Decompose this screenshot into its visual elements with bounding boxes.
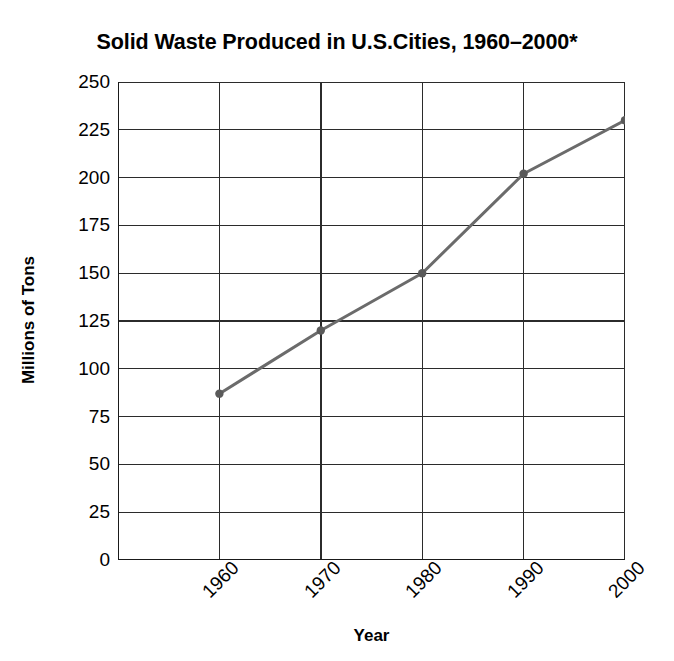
x-tick-label: 1960 — [198, 557, 243, 602]
x-tick-label: 1980 — [401, 557, 446, 602]
x-tick-label: 2000 — [604, 557, 649, 602]
x-axis-title: Year — [118, 626, 625, 646]
x-tick-label: 1970 — [300, 557, 345, 602]
x-tick-label: 1990 — [503, 557, 548, 602]
x-axis-tick-labels: 19601970198019902000 — [0, 0, 674, 661]
chart-figure: Solid Waste Produced in U.S.Cities, 1960… — [0, 0, 674, 661]
